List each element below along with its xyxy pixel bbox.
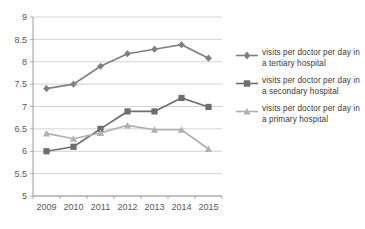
data-point-marker: [205, 55, 212, 62]
data-point-marker: [43, 148, 49, 154]
x-axis-tick-label: 2009: [36, 202, 56, 212]
legend-item-primary[interactable]: visits per doctor per day in a primary h…: [236, 104, 365, 125]
data-point-marker: [70, 144, 76, 150]
line-chart: 55.566.577.588.5920092010201120122013201…: [0, 0, 365, 229]
x-axis-tick-label: 2012: [117, 202, 137, 212]
legend-item-tertiary[interactable]: visits per doctor per day in a tertiary …: [236, 48, 365, 69]
y-axis-tick-label: 8: [22, 57, 27, 67]
y-axis-tick-label: 7: [22, 102, 27, 112]
x-axis-tick-label: 2010: [63, 202, 83, 212]
x-axis-tick-label: 2014: [171, 202, 191, 212]
data-point-marker: [151, 46, 158, 53]
data-point-marker: [124, 50, 131, 57]
x-axis-tick-label: 2013: [144, 202, 164, 212]
y-axis-tick-label: 6.5: [14, 124, 27, 134]
data-point-marker: [43, 85, 50, 92]
y-axis-tick-label: 5.5: [14, 169, 27, 179]
chart-legend: visits per doctor per day in a tertiary …: [236, 48, 365, 132]
legend-label-tertiary: visits per doctor per day in a tertiary …: [262, 48, 362, 69]
y-axis-tick-label: 6: [22, 146, 27, 156]
series-0: [43, 41, 212, 92]
y-axis-tick-label: 7.5: [14, 79, 27, 89]
data-point-marker: [151, 108, 157, 114]
triangle-marker-icon: [236, 105, 258, 118]
data-point-marker: [124, 108, 130, 114]
legend-item-secondary[interactable]: visits per doctor per day in a secondary…: [236, 76, 365, 97]
diamond-marker-icon: [236, 49, 258, 62]
y-axis-tick-label: 5: [22, 191, 27, 201]
y-axis-tick-label: 8.5: [14, 35, 27, 45]
x-axis-tick-label: 2015: [198, 202, 218, 212]
legend-label-primary: visits per doctor per day in a primary h…: [262, 104, 362, 125]
data-point-marker: [178, 95, 184, 101]
legend-label-secondary: visits per doctor per day in a secondary…: [262, 76, 362, 97]
data-point-marker: [205, 104, 211, 110]
data-point-marker: [178, 41, 185, 48]
square-marker-icon: [236, 77, 258, 90]
x-axis-tick-label: 2011: [91, 202, 110, 212]
y-axis-tick-label: 9: [22, 12, 27, 22]
